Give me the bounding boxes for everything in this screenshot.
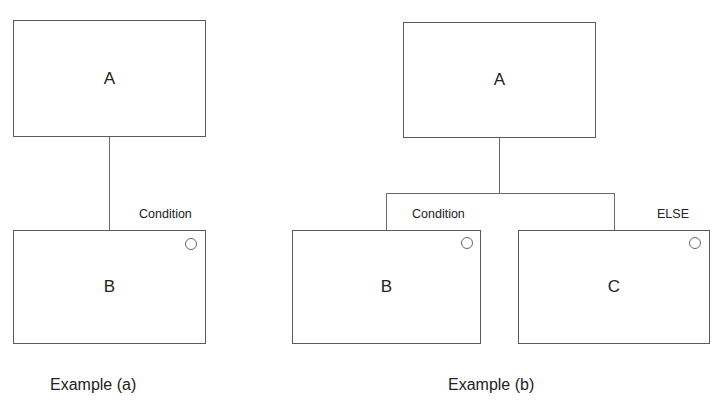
circle-icon — [185, 238, 197, 250]
condition-label: Condition — [139, 207, 192, 221]
connector-line-trunk — [499, 138, 500, 193]
box-label: B — [14, 277, 205, 297]
example-a-box-a: A — [13, 20, 206, 137]
box-label: C — [519, 277, 709, 297]
example-a-box-b: B — [13, 230, 206, 344]
connector-line-branch — [386, 193, 614, 194]
box-label: A — [404, 70, 595, 90]
example-b-box-c: C — [518, 230, 710, 344]
example-b-box-b: B — [292, 230, 481, 344]
example-b-box-a: A — [403, 22, 596, 138]
circle-icon — [461, 237, 473, 249]
caption: Example (b) — [448, 376, 534, 394]
connector-line-left — [386, 193, 387, 230]
connector-line-right — [614, 193, 615, 230]
connector-line — [109, 137, 110, 230]
caption: Example (a) — [50, 376, 136, 394]
box-label: B — [293, 277, 480, 297]
circle-icon — [689, 237, 701, 249]
condition-label: Condition — [412, 207, 465, 221]
box-label: A — [14, 69, 205, 89]
else-label: ELSE — [657, 207, 689, 221]
